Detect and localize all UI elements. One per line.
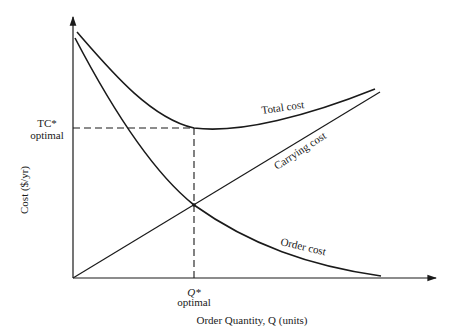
carrying-cost-label: Carrying cost <box>272 129 329 172</box>
tc-star-label: TC* <box>37 117 57 129</box>
x-axis-label: Order Quantity, Q (units) <box>196 314 307 327</box>
carrying-cost-line <box>73 92 380 278</box>
y-axis-label: Cost ($/yr) <box>18 166 31 214</box>
eoq-cost-chart: Cost ($/yr) TC* optimal Q* optimal Order… <box>0 0 451 332</box>
tc-optimal-label: optimal <box>30 129 64 141</box>
intersection-point <box>192 203 196 207</box>
total-cost-curve <box>77 32 375 129</box>
order-cost-curve <box>75 38 381 276</box>
q-optimal-label: optimal <box>177 296 211 308</box>
total-cost-label: Total cost <box>261 98 305 116</box>
